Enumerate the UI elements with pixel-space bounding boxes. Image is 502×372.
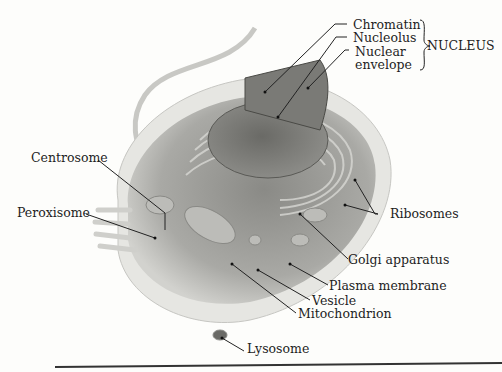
label-lysosome: Lysosome (247, 342, 309, 355)
label-nucleolus: Nucleolus (353, 31, 416, 44)
label-golgi-apparatus: Golgi apparatus (348, 253, 449, 266)
label-peroxisome: Peroxisome (17, 206, 90, 219)
label-mitochondrion: Mitochondrion (298, 307, 392, 320)
label-centrosome: Centrosome (31, 151, 108, 164)
label-nucleus-group: NUCLEUS (427, 39, 495, 52)
label-nuclear-envelope-2: envelope (355, 58, 412, 71)
animal-cell-illustration (0, 0, 502, 372)
label-ribosomes: Ribosomes (390, 207, 459, 220)
label-plasma-membrane: Plasma membrane (329, 279, 447, 292)
